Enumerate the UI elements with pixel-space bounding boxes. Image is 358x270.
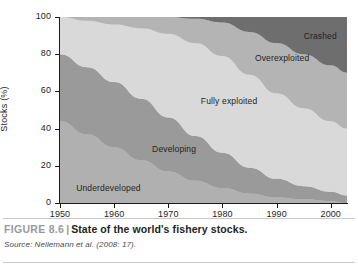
y-axis-title-wrapper: Stocks (%): [22, 17, 23, 203]
x-tick-mark: [222, 203, 223, 208]
y-axis-title: Stocks (%): [0, 86, 9, 132]
x-tick-mark: [331, 203, 332, 208]
y-tick-label: 60: [41, 85, 51, 95]
caption-line: FIGURE 8.6|State of the world's fishery …: [4, 223, 354, 236]
y-tick-label: 40: [41, 123, 51, 133]
y-axis-line: [59, 17, 60, 204]
caption-block: FIGURE 8.6|State of the world's fishery …: [0, 218, 358, 270]
y-tick-label: 0: [46, 197, 51, 207]
area-series-group: [60, 17, 347, 203]
caption-bottom-rule: [3, 262, 355, 263]
figure-source: Source: Nellemann et al. (2008: 17).: [4, 240, 136, 249]
y-tick-label: 20: [41, 160, 51, 170]
stacked-area-svg: [60, 17, 347, 203]
figure-container: Stocks (%) 020406080100 UnderdevelopedDe…: [0, 0, 358, 270]
x-tick-mark: [277, 203, 278, 208]
x-tick-mark: [114, 203, 115, 208]
plot-area: UnderdevelopedDevelopingFully exploitedO…: [60, 17, 347, 203]
y-tick-label: 80: [41, 48, 51, 58]
figure-title: State of the world's fishery stocks.: [71, 223, 247, 235]
caption-top-rule: [3, 218, 355, 219]
figure-number: FIGURE 8.6: [4, 223, 64, 235]
x-tick-mark: [168, 203, 169, 208]
x-axis-line: [59, 203, 348, 204]
y-tick-label: 100: [36, 11, 51, 21]
chart-block: Stocks (%) 020406080100 UnderdevelopedDe…: [0, 0, 358, 218]
x-tick-mark: [60, 203, 61, 208]
